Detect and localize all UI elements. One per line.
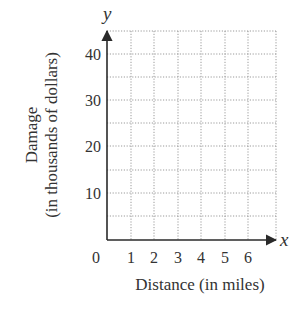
x-axis-title: Distance (in miles) bbox=[135, 275, 264, 294]
x-tick-label: 3 bbox=[174, 249, 182, 266]
plot-grid bbox=[107, 31, 276, 240]
y-variable-label: y bbox=[101, 3, 112, 24]
x-variable-label: x bbox=[279, 229, 289, 250]
x-tick-label: 1 bbox=[127, 249, 135, 266]
y-axis-title-line2: (in thousands of dollars) bbox=[42, 52, 61, 218]
y-tick-label: 40 bbox=[85, 46, 101, 63]
y-tick-label: 30 bbox=[85, 92, 101, 109]
y-tick-label: 20 bbox=[85, 138, 101, 155]
x-tick-label: 5 bbox=[221, 249, 229, 266]
y-axis-title: Damage (in thousands of dollars) bbox=[22, 52, 61, 218]
y-axis-title-line1: Damage bbox=[22, 107, 41, 164]
x-tick-label: 2 bbox=[150, 249, 158, 266]
x-tick-label: 4 bbox=[197, 249, 205, 266]
x-tick-label: 6 bbox=[244, 249, 252, 266]
y-tick-label: 10 bbox=[85, 185, 101, 202]
chart: y x 40 30 20 10 0 1 2 3 4 5 6 Distance (… bbox=[0, 0, 308, 313]
origin-label: 0 bbox=[92, 249, 100, 266]
